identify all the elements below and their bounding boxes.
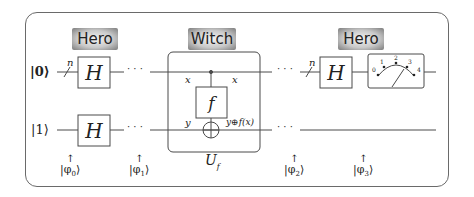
meter-tick-1: 1 bbox=[380, 58, 384, 65]
hero-badge-left: Hero bbox=[72, 28, 118, 50]
meter-tick-3: 3 bbox=[408, 58, 412, 65]
oracle-label: Uf bbox=[205, 152, 220, 171]
hero-badge-left-label: Hero bbox=[77, 30, 113, 48]
up-arrow-icon: ↑ bbox=[290, 154, 298, 163]
state-label-1: |φ1⟩ bbox=[129, 163, 149, 178]
oracle-top-in-label: x bbox=[185, 74, 191, 85]
oracle-label-sub: f bbox=[217, 162, 220, 171]
register-size-left: n bbox=[67, 57, 73, 68]
state-label-3: |φ3⟩ bbox=[353, 163, 373, 178]
hadamard-gate-bottom: H bbox=[78, 115, 110, 146]
input-ket-zero: |0⟩ bbox=[30, 64, 50, 79]
meter-tick-0: 0 bbox=[372, 66, 376, 73]
ellipsis-bottom-2: · · · bbox=[277, 121, 293, 132]
input-ket-one: |1⟩ bbox=[31, 122, 49, 137]
hero-badge-right: Hero bbox=[338, 28, 384, 50]
meter-tick-2: 2 bbox=[394, 54, 398, 61]
state-label-2: |φ2⟩ bbox=[284, 163, 304, 178]
ellipsis-top-2: · · · bbox=[277, 63, 293, 74]
meter-tick-4: 4 bbox=[417, 66, 421, 73]
hero-badge-right-label: Hero bbox=[343, 30, 379, 48]
witch-badge: Witch bbox=[188, 28, 236, 50]
witch-badge-label: Witch bbox=[191, 30, 233, 48]
oracle-label-main: U bbox=[205, 152, 217, 168]
state-label-0: |φ0⟩ bbox=[60, 163, 80, 178]
hadamard-gate-top: H bbox=[78, 57, 110, 88]
state-marker-3: ↑ |φ3⟩ bbox=[353, 154, 373, 178]
oracle-top-out-label: x bbox=[232, 74, 238, 85]
state-marker-0: ↑ |φ0⟩ bbox=[60, 154, 80, 178]
oracle-bottom-out-label: y⊕f(x) bbox=[226, 117, 254, 127]
function-gate-label: f bbox=[196, 87, 227, 118]
up-arrow-icon: ↑ bbox=[359, 154, 367, 163]
meter-needle bbox=[392, 69, 404, 87]
ellipsis-bottom-1: · · · bbox=[127, 121, 143, 132]
state-marker-1: ↑ |φ1⟩ bbox=[129, 154, 149, 178]
ellipsis-top-1: · · · bbox=[127, 63, 143, 74]
up-arrow-icon: ↑ bbox=[66, 154, 74, 163]
state-marker-2: ↑ |φ2⟩ bbox=[284, 154, 304, 178]
up-arrow-icon: ↑ bbox=[135, 154, 143, 163]
register-size-right: n bbox=[309, 57, 315, 68]
oracle-bottom-in-label: y bbox=[185, 117, 191, 128]
hadamard-gate-final: H bbox=[320, 57, 352, 88]
